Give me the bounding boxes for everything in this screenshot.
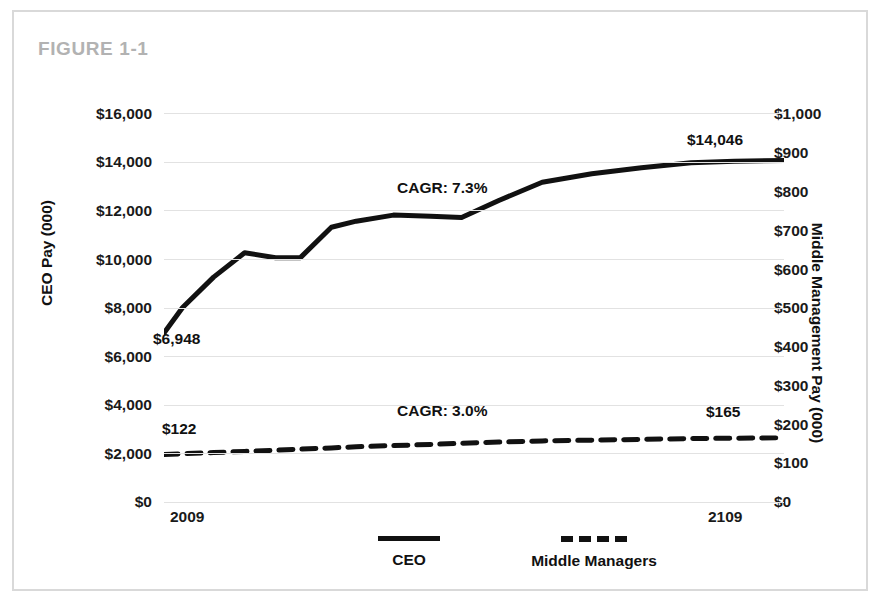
mm-start-label: $122 (162, 420, 196, 438)
legend-label: Middle Managers (494, 552, 694, 570)
y-axis-right-tick: $0 (774, 493, 854, 511)
ceo-start-label: $6,948 (153, 330, 200, 348)
gridline (164, 308, 784, 309)
mm-cagr-annotation: CAGR: 3.0% (397, 402, 487, 420)
legend-item-ceo[interactable]: CEO (309, 536, 509, 569)
gridline (164, 502, 784, 503)
y-axis-right-title: Middle Management Pay (000) (808, 188, 826, 478)
y-axis-left-tick: $8,000 (66, 299, 152, 317)
legend-item-middle-managers[interactable]: Middle Managers (494, 536, 694, 570)
y-axis-left-tick: $4,000 (66, 396, 152, 414)
ceo-cagr-annotation: CAGR: 7.3% (397, 179, 487, 197)
y-axis-left-tick: $16,000 (66, 105, 152, 123)
y-axis-right-tick: $1,000 (774, 105, 854, 123)
figure-frame: FIGURE 1-1 $16,000 $14,000 $12,000 $10,0… (12, 10, 868, 591)
y-axis-left-tick: $6,000 (66, 348, 152, 366)
figure-title: FIGURE 1-1 (38, 38, 149, 60)
gridline (164, 210, 784, 211)
gridline (164, 113, 784, 114)
chart-legend: CEO Middle Managers (164, 536, 784, 586)
y-axis-left-tick: $2,000 (66, 445, 152, 463)
y-axis-right-tick: $900 (774, 144, 854, 162)
y-axis-left-tick: $10,000 (66, 251, 152, 269)
y-axis-left-tick: $12,000 (66, 202, 152, 220)
legend-swatch-solid-icon (378, 536, 440, 541)
plot-area (164, 113, 784, 502)
legend-swatch-dashed-icon (561, 536, 627, 542)
y-axis-left-tick: $0 (66, 493, 152, 511)
middle-managers-series-line (164, 438, 784, 455)
gridline (164, 356, 784, 357)
legend-label: CEO (309, 551, 509, 569)
x-axis-tick-start: 2009 (170, 508, 204, 526)
gridline (164, 162, 784, 163)
mm-end-label: $165 (706, 403, 740, 421)
x-axis-tick-end: 2109 (708, 508, 742, 526)
gridline (164, 453, 784, 454)
ceo-end-label: $14,046 (687, 131, 743, 149)
y-axis-left-tick: $14,000 (66, 153, 152, 171)
y-axis-left-title: CEO Pay (000) (38, 153, 56, 353)
gridline (164, 259, 784, 260)
